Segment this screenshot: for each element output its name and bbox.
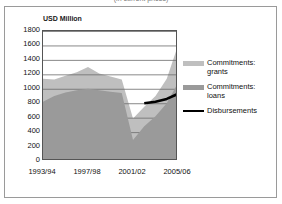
chart-figure: (in current prices) USD Million 18001600… [0,0,282,204]
x-tick-label: 1993/94 [24,167,60,176]
legend-swatch-disbursements [183,110,204,112]
x-tick-label: 2005/06 [159,167,195,176]
legend-swatch-commitments-loans [183,85,204,90]
chart-legend: Commitments: grantsCommitments: loansDis… [183,58,278,123]
legend-item-commitments-grants: Commitments: grants [183,58,278,76]
x-tick-label: 1997/98 [69,167,105,176]
legend-item-disbursements: Disbursements [183,106,278,117]
x-tick-label: 2001/02 [114,167,150,176]
legend-label-commitments-loans: Commitments: loans [207,82,255,100]
legend-swatch-commitments-grants [183,61,204,66]
legend-label-disbursements: Disbursements [207,106,257,115]
legend-label-commitments-grants: Commitments: grants [207,58,255,76]
legend-item-commitments-loans: Commitments: loans [183,82,278,100]
